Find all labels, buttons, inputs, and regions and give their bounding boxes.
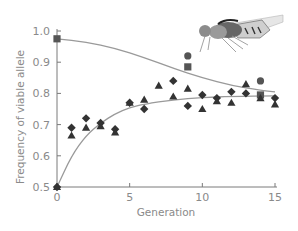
fitted-curve	[57, 39, 275, 92]
plot-area: 0.50.60.70.80.91.0051015GenerationFreque…	[14, 25, 282, 218]
circle-marker	[257, 77, 264, 84]
circle-marker	[184, 52, 191, 59]
diamond-marker	[140, 105, 148, 113]
y-tick-label: 0.5	[33, 181, 51, 194]
y-tick-label: 0.9	[33, 56, 51, 69]
y-tick-label: 0.7	[33, 119, 51, 132]
triangle-marker	[198, 105, 206, 112]
diamond-marker	[184, 102, 192, 110]
x-tick-label: 5	[126, 191, 133, 204]
diamond-marker	[169, 77, 177, 85]
x-tick-label: 15	[268, 191, 282, 204]
diamond-marker	[82, 114, 90, 122]
y-axis-title: Frequency of viable allele	[14, 50, 26, 184]
y-tick-label: 0.8	[33, 87, 51, 100]
x-tick-label: 0	[54, 191, 61, 204]
y-tick-label: 1.0	[33, 25, 51, 38]
y-tick-label: 0.6	[33, 150, 51, 163]
triangle-marker	[227, 99, 235, 106]
diamond-marker	[227, 88, 235, 96]
fruit-fly-illustration	[199, 15, 283, 52]
triangle-marker	[140, 96, 148, 103]
chart: 0.50.60.70.80.91.0051015GenerationFreque…	[0, 0, 298, 231]
triangle-marker	[67, 131, 75, 138]
diamond-marker	[67, 124, 75, 132]
x-axis-title: Generation	[137, 206, 196, 218]
triangle-marker	[242, 80, 250, 87]
x-tick-label: 10	[195, 191, 209, 204]
square-marker	[53, 35, 60, 42]
triangle-marker	[184, 85, 192, 92]
triangle-marker	[271, 100, 279, 107]
triangle-marker	[155, 82, 163, 89]
fitted-curve	[57, 96, 275, 187]
triangle-marker	[82, 124, 90, 131]
square-marker	[184, 63, 191, 70]
triangle-marker	[169, 92, 177, 99]
